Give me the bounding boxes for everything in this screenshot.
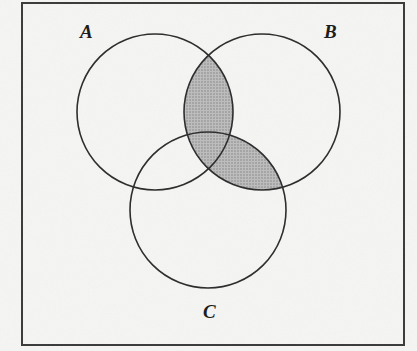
set-label-a: A [80, 22, 93, 41]
venn-diagram-canvas [0, 0, 417, 351]
set-label-b: B [324, 22, 337, 41]
set-label-c: C [203, 302, 216, 321]
paper-grain [0, 0, 417, 351]
venn-diagram-figure: A B C [0, 0, 417, 351]
